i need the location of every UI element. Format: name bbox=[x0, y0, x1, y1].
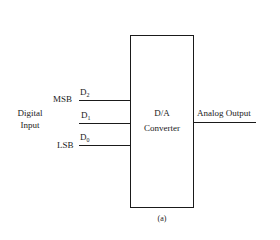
block-label-line2: Converter bbox=[130, 123, 194, 133]
input-d0-label: D0 bbox=[80, 132, 90, 142]
input-d1-label: D1 bbox=[81, 110, 91, 120]
figure-caption: (a) bbox=[130, 214, 194, 224]
analog-output-label: Analog Output bbox=[197, 108, 251, 118]
msb-label: MSB bbox=[53, 94, 72, 104]
input-d1-line bbox=[79, 123, 131, 124]
input-d1-subscript: 1 bbox=[88, 115, 91, 121]
input-d0-line bbox=[79, 145, 131, 146]
input-d2-subscript: 2 bbox=[87, 92, 90, 98]
digital-input-label-line1: Digital bbox=[12, 108, 48, 118]
input-d0-subscript: 0 bbox=[87, 137, 90, 143]
analog-output-line bbox=[193, 122, 256, 123]
digital-input-label-line2: Input bbox=[12, 120, 48, 130]
dac-converter-block bbox=[130, 35, 194, 208]
input-d2-label: D2 bbox=[80, 87, 90, 97]
lsb-label: LSB bbox=[57, 140, 74, 150]
input-d2-line bbox=[79, 100, 131, 101]
block-label-line1: D/A bbox=[130, 108, 194, 118]
